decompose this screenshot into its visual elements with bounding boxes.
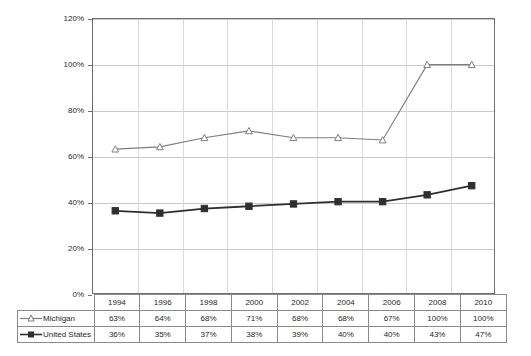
y-axis-tick-label: 100% <box>40 60 84 69</box>
table-header-cell: 1996 <box>140 295 186 311</box>
data-point-marker <box>379 198 385 204</box>
table-cell: 40% <box>323 327 369 343</box>
y-axis-tick <box>88 203 92 204</box>
table-cell: 35% <box>140 327 186 343</box>
data-point-marker <box>246 203 252 209</box>
table-cell: 68% <box>323 311 369 327</box>
data-point-marker <box>335 198 341 204</box>
table-corner-cell <box>18 295 95 311</box>
data-point-marker <box>201 205 207 211</box>
united-states-series-icon <box>20 330 42 339</box>
data-point-marker <box>246 128 253 134</box>
table-header-cell: 1994 <box>94 295 140 311</box>
plot-area <box>92 18 495 294</box>
table-cell: 100% <box>460 311 506 327</box>
table-cell: 39% <box>277 327 323 343</box>
legend-label: Michigan <box>43 314 75 323</box>
table-cell: 68% <box>277 311 323 327</box>
table-cell: 43% <box>415 327 461 343</box>
table-row: United States 36% 35% 37% 38% 39% 40% 40… <box>18 327 507 343</box>
table-cell: 63% <box>94 311 140 327</box>
data-point-marker <box>157 210 163 216</box>
table-header-cell: 2000 <box>231 295 277 311</box>
table-cell: 100% <box>415 311 461 327</box>
data-point-marker <box>290 201 296 207</box>
y-axis-tick-label: 20% <box>40 244 84 253</box>
legend-item-michigan: Michigan <box>18 311 95 327</box>
y-axis-tick <box>88 19 92 20</box>
table-header-cell: 2004 <box>323 295 369 311</box>
table-cell: 68% <box>186 311 232 327</box>
table-header-cell: 2008 <box>415 295 461 311</box>
table-row: Michigan 63% 64% 68% 71% 68% 68% 67% 100… <box>18 311 507 327</box>
data-table: 1994 1996 1998 2000 2002 2004 2006 2008 … <box>17 294 507 343</box>
table-header-cell: 1998 <box>186 295 232 311</box>
chart-page: 0%20%40%60%80%100%120% 1994 1996 1998 20… <box>0 0 531 356</box>
table-cell: 36% <box>94 327 140 343</box>
table-cell: 40% <box>369 327 415 343</box>
y-axis-tick <box>88 65 92 66</box>
michigan-series-icon <box>20 314 42 323</box>
data-point-marker <box>424 192 430 198</box>
y-axis-tick-label: 120% <box>40 14 84 23</box>
series-line-united-states <box>115 186 471 213</box>
table-header-row: 1994 1996 1998 2000 2002 2004 2006 2008 … <box>18 295 507 311</box>
legend-label: United States <box>43 330 91 339</box>
series-layer <box>93 19 494 293</box>
table-cell: 37% <box>186 327 232 343</box>
table-header-cell: 2010 <box>460 295 506 311</box>
table-cell: 71% <box>231 311 277 327</box>
y-axis-tick-label: 80% <box>40 106 84 115</box>
y-axis-tick <box>88 157 92 158</box>
y-axis-tick-label: 40% <box>40 198 84 207</box>
table-header-cell: 2006 <box>369 295 415 311</box>
y-axis-tick <box>88 111 92 112</box>
y-axis-tick <box>88 249 92 250</box>
table-cell: 67% <box>369 311 415 327</box>
y-axis-tick-label: 60% <box>40 152 84 161</box>
table-cell: 47% <box>460 327 506 343</box>
legend-item-united-states: United States <box>18 327 95 343</box>
table-header-cell: 2002 <box>277 295 323 311</box>
table-cell: 38% <box>231 327 277 343</box>
table-cell: 64% <box>140 311 186 327</box>
data-point-marker <box>112 208 118 214</box>
data-point-marker <box>469 183 475 189</box>
